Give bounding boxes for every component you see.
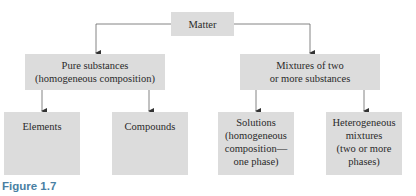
compounds-node: Compounds bbox=[112, 112, 188, 175]
elements-label: Elements bbox=[22, 120, 61, 133]
pure-substances-line1: Pure substances bbox=[62, 59, 129, 72]
mixtures-line2: or more substances bbox=[270, 72, 350, 85]
heterogeneous-line3: (two or more bbox=[337, 142, 392, 155]
solutions-line1: Solutions bbox=[236, 116, 276, 129]
heterogeneous-line1: Heterogeneous bbox=[333, 116, 396, 129]
compounds-label: Compounds bbox=[125, 120, 176, 133]
solutions-line3: composition— bbox=[225, 142, 287, 155]
matter-node: Matter bbox=[171, 12, 234, 36]
heterogeneous-line4: phases) bbox=[348, 155, 380, 168]
mixtures-line1: Mixtures of two bbox=[276, 59, 344, 72]
pure-substances-line2: (homogeneous composition) bbox=[35, 72, 155, 85]
solutions-line2: (homogeneous bbox=[225, 129, 287, 142]
solutions-line4: one phase) bbox=[233, 155, 278, 168]
heterogeneous-line2: mixtures bbox=[346, 129, 383, 142]
mixtures-node: Mixtures of two or more substances bbox=[240, 54, 380, 90]
heterogeneous-mixtures-node: Heterogeneous mixtures (two or more phas… bbox=[326, 112, 402, 175]
solutions-node: Solutions (homogeneous composition— one … bbox=[218, 112, 294, 175]
figure-caption: Figure 1.7 bbox=[2, 180, 56, 192]
matter-label: Matter bbox=[189, 18, 217, 31]
pure-substances-node: Pure substances (homogeneous composition… bbox=[25, 54, 165, 90]
elements-node: Elements bbox=[4, 112, 80, 175]
